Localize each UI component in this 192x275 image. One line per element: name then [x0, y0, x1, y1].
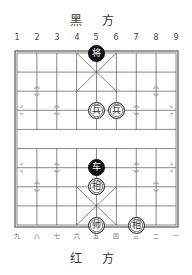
file-number: 九	[10, 231, 24, 240]
file-number: 四	[109, 231, 123, 240]
piece-char: 兵	[112, 106, 121, 115]
file-number: 三	[129, 231, 143, 240]
piece-char: 车	[92, 163, 101, 172]
piece-char: 帅	[92, 221, 101, 230]
file-number: 六	[70, 231, 84, 240]
file-number: 一	[169, 231, 183, 240]
file-number: 七	[50, 231, 64, 240]
file-number: 八	[30, 231, 44, 240]
piece-char: 兵	[92, 106, 101, 115]
piece-char: 相	[132, 221, 141, 230]
red-side-label: 红 方	[0, 249, 192, 266]
bottom-file-numbers: 九 八 七 六 五 四 三 二 一	[0, 231, 192, 243]
piece-char: 将	[92, 49, 101, 58]
file-number: 五	[89, 231, 103, 240]
piece-red-soldier[interactable]: 兵	[88, 102, 105, 119]
file-number: 二	[149, 231, 163, 240]
piece-red-soldier[interactable]: 兵	[108, 102, 125, 119]
piece-black-general[interactable]: 将	[88, 45, 105, 62]
piece-char: 相	[92, 182, 101, 191]
